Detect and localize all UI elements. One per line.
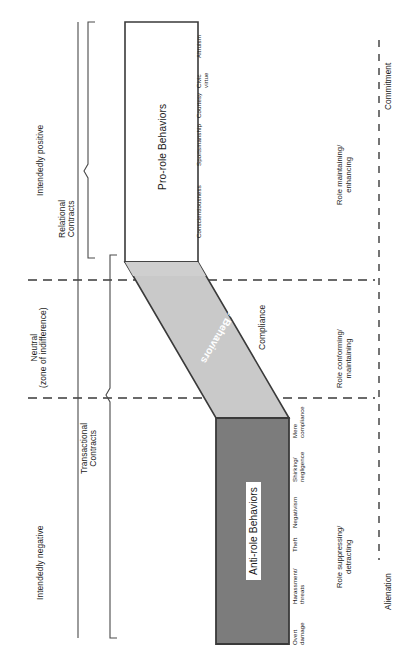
contract-label-relational-line2: Contracts [67,200,76,238]
role-outcome-0-line2: enhancing [345,145,354,205]
anti-role-example-4-line2: negligence [299,452,306,482]
anti-role-example-3: Negativism [292,497,299,528]
pro-role-example-2: Courtesy [196,93,203,118]
anti-role-example-4: Shirking/ negligence [292,452,306,482]
anti-role-example-2-line1: Theft [292,538,299,552]
attachment-axis-alienation-label: Alienation [384,573,393,610]
anti-role-example-3-line1: Negativism [292,497,299,528]
bracket-relational [84,22,95,258]
pro-role-behaviors-label: Pro-role Behaviors [157,104,168,190]
anti-role-example-0-line2: damage [299,622,306,645]
pro-role-example-4-line1: Altruism [196,35,203,58]
diagram-canvas: Intendedly positive Neutral (zone of ind… [0,0,409,655]
anti-role-example-5-line2: compliance [299,406,306,438]
compliance-label: Compliance [258,305,267,350]
pro-role-example-1: Sportsmanship [196,124,203,166]
pro-role-example-3-line2: virtue [203,72,210,88]
attachment-axis-commitment-label: Commitment [384,63,393,110]
anti-role-example-2: Theft [292,538,299,552]
contract-label-transactional-line2: Contracts [89,423,98,474]
bracket-transactional [106,255,117,638]
pro-role-example-3: Civic virtue [196,72,210,88]
contract-label-relational: Relational Contracts [58,200,77,238]
pro-role-example-1-line1: Sportsmanship [196,124,203,166]
role-outcome-1-line2: maintaining [345,329,354,388]
role-outcome-maintaining-enhancing: Role maintaining/ enhancing [336,145,353,205]
anti-role-example-5: Mere compliance [292,406,306,438]
valence-label-neutral: Neutral (zone of indifference) [30,307,49,388]
valence-label-negative: Intendedly negative [36,525,45,600]
role-outcome-2-line2: detracting [345,526,354,588]
anti-role-behaviors-label-wrap: Anti-role Behaviors [246,482,261,580]
role-outcome-conforming-maintaining: Role conforming/ maintaining [336,329,353,388]
pro-role-example-0: Conscientiousness [196,185,203,238]
role-band-bevel [125,262,206,276]
anti-role-example-0: Overt damage [292,622,306,645]
role-outcome-suppressing-detracting: Role suppressing/ detracting [336,526,353,588]
pro-role-example-4: Altruism [196,35,203,58]
contract-label-transactional: Transactional Contracts [80,423,99,474]
pro-role-example-2-line1: Courtesy [196,93,203,118]
anti-role-example-1-line2: threats [299,568,306,604]
valence-label-positive: Intendedly positive [36,125,45,196]
anti-role-behaviors-label: Anti-role Behaviors [246,482,261,580]
pro-role-example-0-line1: Conscientiousness [196,185,203,238]
valence-label-neutral-line2: (zone of indifference) [39,307,48,388]
anti-role-example-1: Harassment/ threats [292,568,306,604]
